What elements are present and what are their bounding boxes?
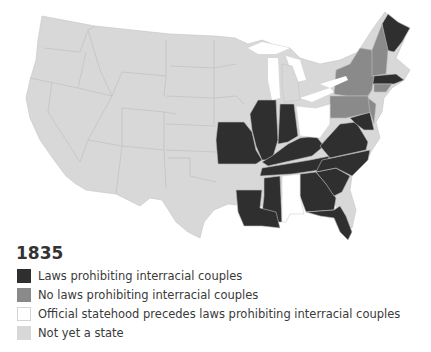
legend-item-not-state: Not yet a state bbox=[17, 323, 400, 342]
legend-item-laws: Laws prohibiting interracial couples bbox=[17, 266, 400, 285]
us-map bbox=[0, 0, 431, 245]
legend-label: Laws prohibiting interracial couples bbox=[38, 269, 242, 283]
legend-label: Official statehood precedes laws prohibi… bbox=[38, 307, 400, 321]
swatch-laws bbox=[17, 269, 31, 283]
legend: Laws prohibiting interracial couples No … bbox=[17, 266, 400, 342]
legend-title: 1835 bbox=[16, 243, 63, 263]
legend-item-statehood-precedes: Official statehood precedes laws prohibi… bbox=[17, 304, 400, 323]
legend-label: No laws prohibiting interracial couples bbox=[38, 288, 258, 302]
legend-label: Not yet a state bbox=[38, 326, 124, 340]
swatch-no-laws bbox=[17, 288, 31, 302]
swatch-statehood-precedes bbox=[17, 307, 31, 321]
legend-item-no-laws: No laws prohibiting interracial couples bbox=[17, 285, 400, 304]
state-indiana bbox=[278, 104, 298, 144]
swatch-not-state bbox=[17, 326, 31, 340]
